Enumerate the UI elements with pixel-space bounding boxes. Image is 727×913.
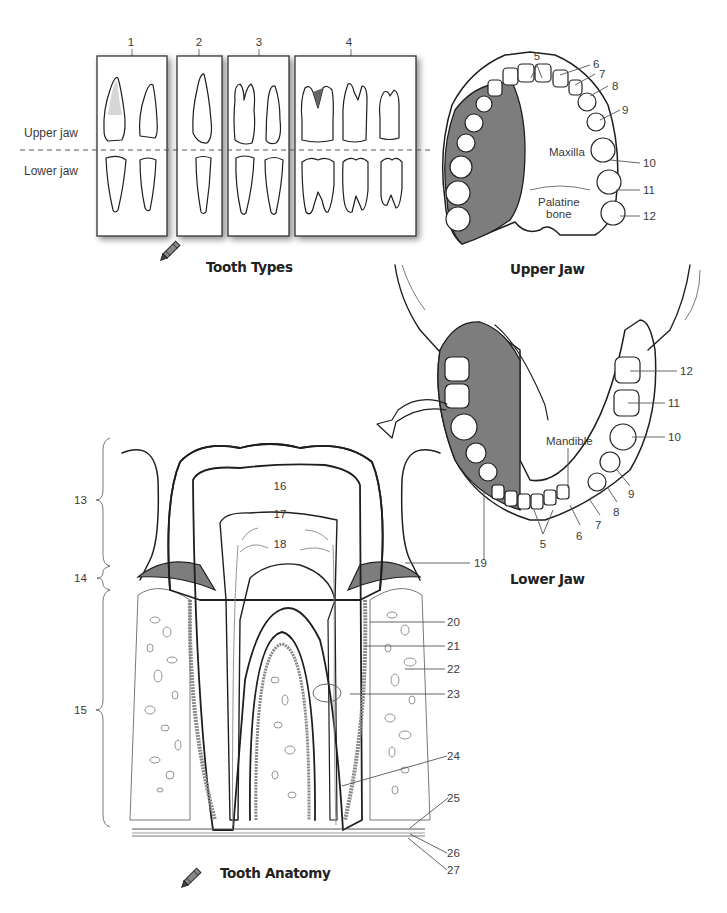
upper-jaw-title: Upper Jaw — [510, 261, 585, 277]
label-18: 18 — [274, 538, 287, 550]
incisors-box — [97, 56, 167, 236]
label-17: 17 — [274, 508, 287, 520]
upper-callout-5: 5 — [534, 50, 540, 62]
callout-19: 19 — [474, 557, 487, 569]
upper-callout-11: 11 — [643, 184, 655, 196]
callout-23: 23 — [447, 688, 460, 700]
bracket-label-15: 15 — [74, 704, 87, 716]
callout-24: 24 — [447, 750, 460, 762]
group-number-2: 2 — [196, 36, 202, 48]
zoom-arrow-icon — [377, 400, 447, 438]
upper-callout-10: 10 — [643, 157, 656, 169]
group-number-1: 1 — [128, 36, 134, 48]
palatine-label-line1: Palatine — [538, 196, 580, 208]
crayon-icon — [159, 241, 180, 262]
lower-jaw-figure: Mandible 12 11 10 9 8 7 6 5 Lower Jaw — [377, 265, 700, 587]
upper-callout-8: 8 — [612, 80, 618, 92]
lower-jaw-row-label: Lower jaw — [24, 164, 78, 178]
premolars-box — [228, 56, 289, 236]
mandible-label: Mandible — [546, 435, 593, 447]
callout-27: 27 — [447, 864, 460, 876]
lower-jaw-title: Lower Jaw — [510, 571, 585, 587]
group-number-3: 3 — [256, 36, 262, 48]
bone-trabeculae — [145, 612, 416, 798]
callout-21: 21 — [447, 640, 460, 652]
upper-callout-12: 12 — [643, 210, 656, 222]
group-number-4: 4 — [346, 36, 353, 48]
palatine-label-line2: bone — [546, 208, 572, 220]
crayon-icon — [180, 868, 201, 889]
callout-22: 22 — [447, 663, 460, 675]
bracket-label-13: 13 — [74, 494, 87, 506]
upper-callout-7: 7 — [599, 68, 605, 80]
tooth-anatomy-title: Tooth Anatomy — [220, 865, 331, 881]
lower-callout-9: 9 — [628, 488, 634, 500]
callout-20: 20 — [447, 616, 460, 628]
maxilla-label: Maxilla — [549, 146, 585, 158]
upper-jaw-figure: Maxilla Palatine bone 5 6 7 8 9 10 11 12… — [443, 50, 656, 277]
callout-26: 26 — [447, 847, 460, 859]
label-16: 16 — [274, 480, 287, 492]
callout-25: 25 — [447, 792, 460, 804]
lower-callout-11: 11 — [668, 397, 680, 409]
lower-callout-6: 6 — [576, 530, 582, 542]
tooth-types-figure: 1 2 3 4 Upper jaw Lower jaw — [20, 36, 432, 275]
tooth-anatomy-figure: 13 14 15 — [74, 438, 487, 889]
tooth-types-title: Tooth Types — [206, 259, 293, 275]
lower-callout-12: 12 — [680, 365, 693, 377]
lower-callout-7: 7 — [595, 519, 601, 531]
upper-callout-9: 9 — [622, 104, 628, 116]
lower-callout-8: 8 — [613, 506, 619, 518]
lower-callout-10: 10 — [668, 431, 681, 443]
bracket-label-14: 14 — [74, 572, 87, 584]
lower-callout-5: 5 — [540, 538, 546, 550]
upper-jaw-row-label: Upper jaw — [24, 126, 78, 140]
